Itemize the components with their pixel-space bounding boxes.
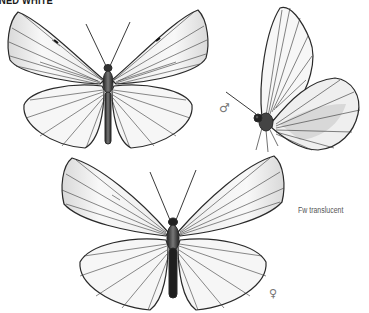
male-upperside-butterfly (8, 10, 208, 148)
male-symbol: ♂ (219, 101, 230, 115)
female-upperside-butterfly (62, 156, 284, 310)
male-side-butterfly (226, 7, 360, 152)
female-symbol: ♀ (269, 287, 277, 300)
illustration-plate (0, 0, 369, 313)
annotation-fw-translucent: Fw translucent (298, 205, 343, 215)
